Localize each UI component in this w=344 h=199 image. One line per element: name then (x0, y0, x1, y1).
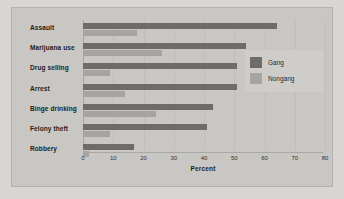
category-label: Marijuana use (30, 44, 150, 51)
legend-swatch-gang-icon (250, 57, 262, 68)
category-label: Binge drinking (30, 105, 150, 112)
x-tick-label-30: 30 (170, 155, 177, 161)
legend-item-nongang[interactable]: Nongang (250, 70, 318, 86)
legend-swatch-nongang-icon (250, 73, 262, 84)
x-tick-label-50: 50 (231, 155, 238, 161)
x-tick-label-10: 10 (110, 155, 117, 161)
bar-chart-figure: AssaultMarijuana useDrug sellingArrestBi… (11, 7, 333, 187)
category-axis-labels: AssaultMarijuana useDrug sellingArrestBi… (12, 8, 334, 188)
x-tick-label-70: 70 (291, 155, 298, 161)
chart-legend: Gang Nongang (245, 50, 323, 92)
category-label: Drug selling (30, 64, 150, 71)
x-tick-label-20: 20 (140, 155, 147, 161)
x-tick-label-80: 80 (322, 155, 329, 161)
x-tick-label-60: 60 (261, 155, 268, 161)
category-label: Arrest (30, 85, 150, 92)
legend-label-nongang: Nongang (268, 75, 294, 82)
category-label: Assault (30, 24, 150, 31)
legend-item-gang[interactable]: Gang (250, 54, 318, 70)
legend-label-gang: Gang (268, 59, 284, 66)
x-axis-title: Percent (83, 165, 323, 172)
category-label: Felony theft (30, 125, 150, 132)
category-label: Robbery (30, 145, 150, 152)
x-tick-label-40: 40 (201, 155, 208, 161)
x-tick-label-0: 0 (81, 155, 84, 161)
